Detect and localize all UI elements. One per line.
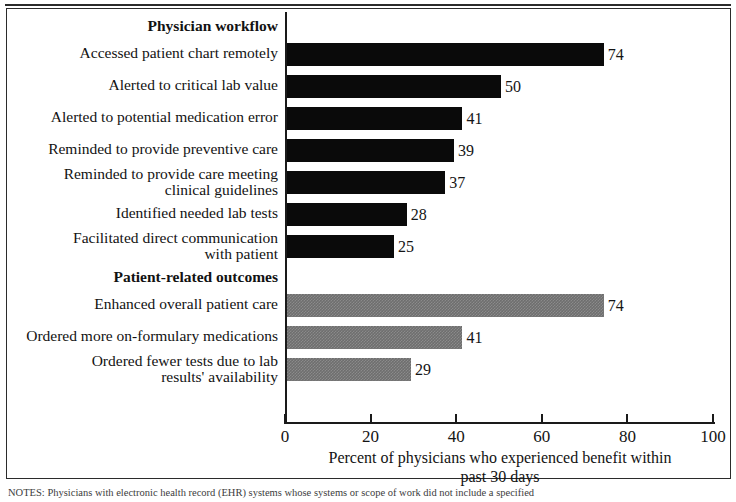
x-axis-line — [285, 422, 715, 424]
bar-row-label: Alerted to critical lab value — [10, 77, 278, 93]
group-header-row: Patient-related outcomes — [0, 265, 736, 295]
bar-row: Alerted to critical lab value50 — [0, 73, 736, 103]
x-tick-label: 40 — [426, 427, 486, 447]
bar-value-label: 25 — [398, 235, 414, 258]
bar-row-label-line1: Facilitated direct communication — [10, 230, 278, 246]
x-tick-mark — [284, 414, 286, 424]
bar-row: Enhanced overall patient care74 — [0, 292, 736, 322]
bar-row-label-line1: Ordered fewer tests due to lab — [10, 353, 278, 369]
bar — [287, 171, 445, 194]
group-header-row: Physician workflow — [0, 14, 736, 44]
x-axis-title-line2: past 30 days — [285, 467, 715, 486]
bar-value-label: 39 — [458, 139, 474, 162]
bar — [287, 43, 604, 66]
top-rule — [5, 4, 731, 6]
x-axis-title-line1: Percent of physicians who experienced be… — [285, 448, 715, 467]
bar — [287, 139, 454, 162]
bar-value-label: 41 — [466, 107, 482, 130]
x-tick-label: 60 — [512, 427, 572, 447]
bar — [287, 235, 394, 258]
bar — [287, 203, 407, 226]
bar-row-label-line1: Reminded to provide care meeting — [10, 166, 278, 182]
group-header-label: Physician workflow — [10, 18, 278, 34]
x-tick-label: 100 — [683, 427, 736, 447]
figure-footnote: NOTES: Physicians with electronic health… — [8, 487, 730, 500]
x-tick-mark — [541, 414, 543, 424]
bar-row: Reminded to provide preventive care39 — [0, 137, 736, 167]
figure-panel: 020406080100 Physician workflowAccessed … — [0, 0, 736, 502]
x-tick-label: 80 — [597, 427, 657, 447]
bar-row: Reminded to provide care meetingclinical… — [0, 169, 736, 199]
bar-row-label-line2: clinical guidelines — [10, 182, 278, 198]
bar-row-label: Accessed patient chart remotely — [10, 45, 278, 61]
bar-value-label: 37 — [449, 171, 465, 194]
bar-row-label: Enhanced overall patient care — [10, 296, 278, 312]
bar-row-label-line2: results' availability — [10, 369, 278, 385]
bar-value-label: 74 — [608, 294, 624, 317]
group-header-label: Patient-related outcomes — [10, 269, 278, 285]
bar-row-label: Ordered fewer tests due to labresults' a… — [10, 353, 278, 384]
bar-value-label: 28 — [411, 203, 427, 226]
bar-row-label: Reminded to provide preventive care — [10, 141, 278, 157]
bar — [287, 294, 604, 317]
bar — [287, 358, 411, 381]
bar-row: Ordered fewer tests due to labresults' a… — [0, 356, 736, 386]
bar-value-label: 74 — [608, 43, 624, 66]
x-tick-mark — [455, 414, 457, 424]
bar-row-label: Alerted to potential medication error — [10, 109, 278, 125]
bar — [287, 326, 462, 349]
bar-row-label: Reminded to provide care meetingclinical… — [10, 166, 278, 197]
x-tick-label: 20 — [341, 427, 401, 447]
x-tick-mark — [626, 414, 628, 424]
bar-row: Alerted to potential medication error41 — [0, 105, 736, 135]
bar-row: Accessed patient chart remotely74 — [0, 41, 736, 71]
x-tick-label: 0 — [255, 427, 315, 447]
bar-value-label: 29 — [415, 358, 431, 381]
bar-row-label-line2: with patient — [10, 246, 278, 262]
bar-row: Facilitated direct communicationwith pat… — [0, 233, 736, 263]
x-axis-title: Percent of physicians who experienced be… — [285, 448, 715, 486]
bar-row-label: Ordered more on-formulary medications — [10, 328, 278, 344]
bar-row-label: Facilitated direct communicationwith pat… — [10, 230, 278, 261]
x-tick-mark — [712, 414, 714, 424]
bar — [287, 107, 462, 130]
bar — [287, 75, 501, 98]
bar-row: Ordered more on-formulary medications41 — [0, 324, 736, 354]
x-tick-mark — [370, 414, 372, 424]
bar-row: Identified needed lab tests28 — [0, 201, 736, 231]
bar-value-label: 41 — [466, 326, 482, 349]
bar-value-label: 50 — [505, 75, 521, 98]
bar-row-label: Identified needed lab tests — [10, 205, 278, 221]
